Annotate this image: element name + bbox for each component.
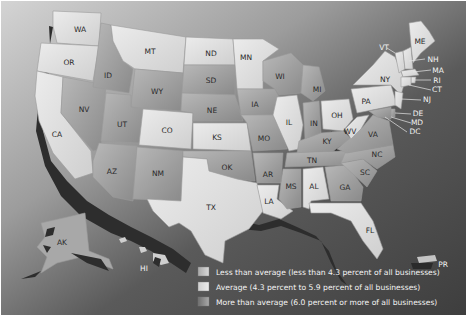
label-IN: IN	[310, 119, 318, 128]
label-AR: AR	[263, 170, 273, 179]
label-SD: SD	[206, 76, 217, 85]
legend-item-low: Less than average (less than 4.3 percent…	[198, 267, 440, 277]
label-CA: CA	[52, 130, 63, 139]
label-NH: NH	[427, 55, 438, 64]
state-DE[interactable]	[391, 109, 395, 117]
label-NY: NY	[380, 75, 391, 84]
label-WY: WY	[151, 87, 163, 96]
label-MI: MI	[313, 85, 322, 94]
label-SC: SC	[360, 168, 370, 177]
label-NM: NM	[152, 169, 164, 178]
label-MS: MS	[285, 182, 296, 191]
label-FL: FL	[366, 226, 375, 235]
label-AL: AL	[309, 182, 319, 191]
label-GA: GA	[340, 183, 352, 192]
label-AZ: AZ	[107, 167, 117, 176]
label-NC: NC	[372, 150, 383, 159]
label-CT: CT	[432, 85, 442, 94]
state-KS[interactable]	[193, 123, 251, 151]
label-OK: OK	[222, 163, 234, 172]
label-MT: MT	[144, 47, 155, 56]
label-UT: UT	[117, 120, 127, 129]
us-choropleth-map: WA OR CA NV ID MT WY UT CO AZ NM ND SD N…	[1, 1, 466, 315]
label-KS: KS	[212, 133, 222, 142]
legend-label-high: More than average (6.0 percent or more o…	[216, 298, 437, 307]
label-HI: HI	[140, 264, 148, 273]
state-CT[interactable]	[401, 77, 411, 87]
label-VT: VT	[379, 43, 389, 52]
label-WI: WI	[275, 72, 285, 81]
label-MA: MA	[432, 66, 444, 75]
label-OR: OR	[63, 58, 74, 67]
label-MD: MD	[411, 118, 423, 127]
label-ME: ME	[414, 37, 425, 46]
label-RI: RI	[433, 76, 440, 85]
label-DE: DE	[413, 109, 424, 118]
label-NE: NE	[207, 106, 218, 115]
label-IA: IA	[251, 100, 259, 109]
label-LA: LA	[264, 197, 274, 206]
label-CO: CO	[161, 126, 172, 135]
legend-item-average: Average (4.3 percent to 5.9 percent of a…	[198, 282, 420, 292]
label-MO: MO	[258, 134, 270, 143]
label-AK: AK	[57, 238, 68, 247]
legend-item-high: More than average (6.0 percent or more o…	[198, 297, 437, 307]
label-DC: DC	[409, 127, 420, 136]
map-frame: WA OR CA NV ID MT WY UT CO AZ NM ND SD N…	[1, 1, 466, 315]
label-VA: VA	[368, 130, 379, 139]
label-WV: WV	[344, 127, 357, 136]
label-WA: WA	[74, 25, 87, 34]
label-OH: OH	[331, 111, 343, 120]
legend: Less than average (less than 4.3 percent…	[198, 267, 440, 307]
legend-swatch-high	[198, 297, 209, 306]
label-IL: IL	[286, 118, 293, 127]
label-TN: TN	[306, 156, 317, 165]
legend-label-average: Average (4.3 percent to 5.9 percent of a…	[216, 283, 420, 292]
label-PA: PA	[361, 97, 371, 106]
label-ID: ID	[104, 71, 112, 80]
label-NJ: NJ	[423, 95, 431, 104]
legend-swatch-average	[198, 282, 209, 291]
legend-swatch-low	[198, 267, 209, 276]
label-TX: TX	[205, 203, 216, 212]
label-MN: MN	[240, 53, 252, 62]
legend-label-low: Less than average (less than 4.3 percent…	[216, 268, 440, 277]
label-ND: ND	[205, 49, 217, 58]
label-KY: KY	[322, 137, 332, 146]
label-NV: NV	[79, 105, 91, 114]
